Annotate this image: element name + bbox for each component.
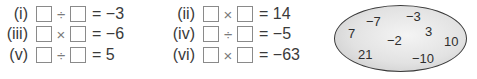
- answer-box[interactable]: [237, 6, 253, 22]
- answer-box[interactable]: [70, 47, 86, 63]
- equation-label: (v): [0, 46, 28, 64]
- answer-box[interactable]: [36, 47, 52, 63]
- equation-label: (iii): [0, 25, 28, 43]
- multiply-operator: ×: [219, 6, 237, 23]
- equation-iii: (iii) × = −6: [0, 25, 124, 43]
- equation-result: = −3: [92, 5, 124, 23]
- number-set-value: 7: [348, 26, 355, 41]
- equation-label: (iv): [165, 25, 195, 43]
- number-set-value: −2: [387, 33, 402, 48]
- number-set-value: 21: [358, 47, 372, 62]
- equation-result: = 14: [259, 5, 291, 23]
- number-set-value: 3: [425, 24, 432, 39]
- divide-operator: ÷: [52, 47, 70, 64]
- answer-box[interactable]: [203, 47, 219, 63]
- equation-result: = −5: [259, 25, 291, 43]
- number-set-value: −7: [366, 14, 381, 29]
- equation-ii: (ii) × = 14: [165, 5, 291, 23]
- equation-vi: (vi) × = −63: [165, 46, 300, 64]
- multiply-operator: ×: [219, 47, 237, 64]
- equation-label: (vi): [165, 46, 195, 64]
- answer-box[interactable]: [203, 26, 219, 42]
- equation-v: (v) ÷ = 5: [0, 46, 115, 64]
- equation-label: (i): [0, 5, 28, 23]
- equation-result: = −6: [92, 25, 124, 43]
- equation-result: = −63: [259, 46, 300, 64]
- answer-box[interactable]: [237, 47, 253, 63]
- answer-box[interactable]: [203, 6, 219, 22]
- number-set-value: −10: [412, 51, 434, 66]
- number-set-value: −3: [406, 9, 421, 24]
- equation-i: (i) ÷ = −3: [0, 5, 124, 23]
- multiply-operator: ×: [52, 26, 70, 43]
- answer-box[interactable]: [70, 26, 86, 42]
- answer-box[interactable]: [36, 6, 52, 22]
- answer-box[interactable]: [36, 26, 52, 42]
- equation-iv: (iv) ÷ = −5: [165, 25, 291, 43]
- equation-label: (ii): [165, 5, 195, 23]
- divide-operator: ÷: [219, 26, 237, 43]
- equation-result: = 5: [92, 46, 115, 64]
- divide-operator: ÷: [52, 6, 70, 23]
- number-set-value: 10: [444, 34, 458, 49]
- answer-box[interactable]: [70, 6, 86, 22]
- answer-box[interactable]: [237, 26, 253, 42]
